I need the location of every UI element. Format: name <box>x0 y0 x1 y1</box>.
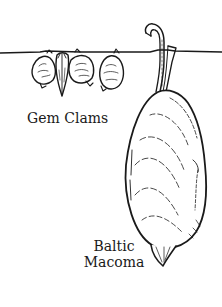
gem-clam-1 <box>32 50 55 88</box>
baltic-macoma-siphon <box>145 24 176 92</box>
baltic-macoma-label-line2: Macoma <box>83 254 145 270</box>
gem-clam-4 <box>100 49 124 91</box>
gem-clam-2 <box>56 53 69 96</box>
baltic-macoma-label-line1: Baltic <box>83 238 145 254</box>
baltic-macoma-shell <box>126 90 207 248</box>
gem-clam-3 <box>69 49 94 86</box>
sediment-surface-line <box>0 50 222 53</box>
gem-clams-label: Gem Clams <box>27 110 108 126</box>
baltic-macoma-label: Baltic Macoma <box>83 238 145 270</box>
baltic-macoma-foot <box>151 245 176 266</box>
